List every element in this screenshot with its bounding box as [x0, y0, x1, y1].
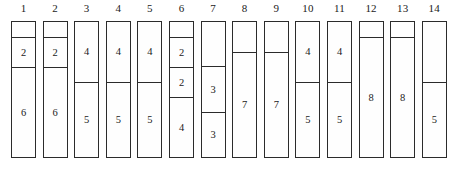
bar-label-2: 2 [43, 1, 68, 15]
bin-item-value: 5 [305, 114, 310, 125]
bin-item-9-2: 7 [265, 52, 288, 157]
bar-label-3: 3 [74, 1, 99, 15]
bin-item-value: 3 [210, 84, 215, 95]
bin-item-7-2: 3 [202, 66, 225, 111]
bin-box-10: 45 [295, 21, 320, 158]
bin-item-value: 2 [52, 47, 57, 58]
bin-box-14: 5 [422, 21, 447, 158]
bar-label-5: 5 [137, 1, 162, 15]
bar-label-12: 12 [359, 1, 384, 15]
bin-item-14-2: 5 [423, 82, 446, 157]
bin-item-value: 8 [368, 92, 373, 103]
bin-box-1: 26 [11, 21, 36, 158]
bin-item-value: 3 [210, 129, 215, 140]
bin-item-value: 5 [116, 114, 121, 125]
bin-item-8-2: 7 [233, 52, 256, 157]
bin-free-space-13-1 [391, 22, 414, 37]
bin-free-space-1-1 [12, 22, 35, 37]
bar-label-11: 11 [327, 1, 352, 15]
bin-box-3: 45 [74, 21, 99, 158]
bar-column-10: 1045 [295, 0, 320, 175]
bin-item-10-1: 4 [296, 22, 319, 82]
bin-item-value: 8 [400, 92, 405, 103]
bar-label-10: 10 [295, 1, 320, 15]
bin-free-space-12-1 [360, 22, 383, 37]
bin-box-6: 224 [169, 21, 194, 158]
bar-column-5: 545 [137, 0, 162, 175]
bin-item-value: 4 [116, 46, 121, 57]
bar-column-14: 145 [422, 0, 447, 175]
bin-item-6-4: 4 [170, 97, 193, 157]
bar-column-7: 733 [201, 0, 226, 175]
bin-box-2: 26 [43, 21, 68, 158]
bin-item-value: 4 [337, 46, 342, 57]
bin-free-space-14-1 [423, 22, 446, 82]
bin-box-4: 45 [106, 21, 131, 158]
bin-item-10-2: 5 [296, 82, 319, 157]
bin-item-5-2: 5 [138, 82, 161, 157]
bin-box-13: 8 [390, 21, 415, 158]
bin-item-value: 5 [147, 114, 152, 125]
bin-box-12: 8 [359, 21, 384, 158]
bar-column-13: 138 [390, 0, 415, 175]
bar-label-9: 9 [264, 1, 289, 15]
bin-packing-figure: 1262263454455456224733879710451145128138… [0, 0, 454, 175]
bin-item-6-2: 2 [170, 37, 193, 67]
bar-column-11: 1145 [327, 0, 352, 175]
bar-column-1: 126 [11, 0, 36, 175]
bin-box-5: 45 [137, 21, 162, 158]
bin-item-11-2: 5 [328, 82, 351, 157]
bin-item-value: 5 [337, 114, 342, 125]
bin-item-2-3: 6 [44, 67, 67, 157]
bin-item-value: 4 [179, 122, 184, 133]
bin-item-3-1: 4 [75, 22, 98, 82]
bin-free-space-8-1 [233, 22, 256, 52]
bin-item-13-2: 8 [391, 37, 414, 157]
bin-free-space-2-1 [44, 22, 67, 37]
bar-column-2: 226 [43, 0, 68, 175]
bin-item-11-1: 4 [328, 22, 351, 82]
bin-item-2-2: 2 [44, 37, 67, 68]
bin-box-11: 45 [327, 21, 352, 158]
bar-column-4: 445 [106, 0, 131, 175]
bar-column-8: 87 [232, 0, 257, 175]
bin-item-12-2: 8 [360, 37, 383, 157]
bin-item-value: 6 [52, 107, 57, 118]
bin-item-value: 6 [21, 107, 26, 118]
bin-free-space-7-1 [202, 22, 225, 66]
bin-item-value: 5 [84, 114, 89, 125]
bar-column-6: 6224 [169, 0, 194, 175]
bin-box-8: 7 [232, 21, 257, 158]
bin-free-space-6-1 [170, 22, 193, 37]
bar-label-6: 6 [169, 1, 194, 15]
bar-label-7: 7 [201, 1, 226, 15]
bin-item-1-3: 6 [12, 67, 35, 157]
bin-item-6-3: 2 [170, 67, 193, 97]
bin-item-7-3: 3 [202, 112, 225, 157]
bin-item-value: 4 [305, 46, 310, 57]
bin-item-5-1: 4 [138, 22, 161, 82]
bar-column-3: 345 [74, 0, 99, 175]
bar-label-14: 14 [422, 1, 447, 15]
bin-item-value: 2 [179, 47, 184, 58]
bin-item-value: 5 [432, 114, 437, 125]
bar-column-12: 128 [359, 0, 384, 175]
bin-item-value: 4 [84, 46, 89, 57]
bar-column-9: 97 [264, 0, 289, 175]
bin-item-value: 7 [274, 99, 279, 110]
bar-label-8: 8 [232, 1, 257, 15]
bin-item-4-2: 5 [107, 82, 130, 157]
bin-item-value: 2 [21, 47, 26, 58]
bin-item-1-2: 2 [12, 37, 35, 68]
bin-item-3-2: 5 [75, 82, 98, 157]
bar-label-13: 13 [390, 1, 415, 15]
bin-item-4-1: 4 [107, 22, 130, 82]
bin-item-value: 4 [147, 46, 152, 57]
bar-label-1: 1 [11, 1, 36, 15]
bar-label-4: 4 [106, 1, 131, 15]
bin-box-7: 33 [201, 21, 226, 158]
bin-item-value: 7 [242, 99, 247, 110]
bin-box-9: 7 [264, 21, 289, 158]
bin-free-space-9-1 [265, 22, 288, 52]
bin-item-value: 2 [179, 77, 184, 88]
